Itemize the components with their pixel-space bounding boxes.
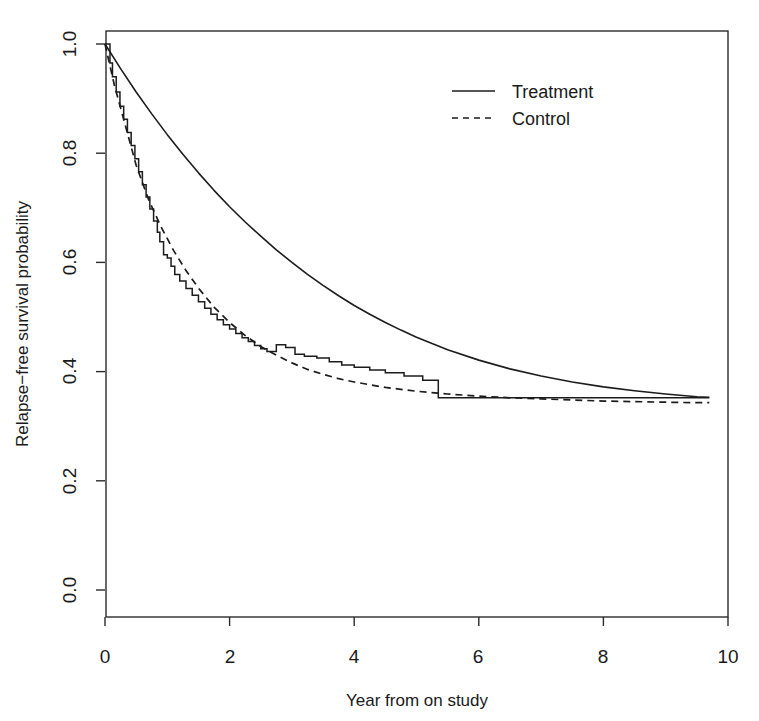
treatment-curve xyxy=(105,44,709,397)
x-axis-ticks xyxy=(105,617,728,626)
plot-frame xyxy=(106,31,728,617)
y-tick-labels: 1.0 0.8 0.6 0.4 0.2 0.0 xyxy=(59,31,80,603)
y-tick-label-0.4: 0.4 xyxy=(59,357,80,384)
chart-legend: Treatment Control xyxy=(452,82,593,129)
x-tick-label-8: 8 xyxy=(598,646,609,667)
y-axis-ticks xyxy=(96,44,105,590)
y-tick-label-1.0: 1.0 xyxy=(59,31,80,57)
x-tick-label-4: 4 xyxy=(349,646,360,667)
x-tick-label-2: 2 xyxy=(225,646,236,667)
y-axis-title: Relapse−free survival probability xyxy=(13,200,32,447)
legend-control-label: Control xyxy=(512,109,570,129)
x-tick-label-0: 0 xyxy=(100,646,111,667)
survival-chart-figure: 1.0 0.8 0.6 0.4 0.2 0.0 0 2 4 6 8 10 Rel… xyxy=(0,0,759,721)
y-tick-label-0.8: 0.8 xyxy=(59,140,80,166)
kaplan-meier-step-curve xyxy=(105,44,709,398)
plot-canvas: 1.0 0.8 0.6 0.4 0.2 0.0 0 2 4 6 8 10 Rel… xyxy=(0,0,759,721)
y-tick-label-0.2: 0.2 xyxy=(59,468,80,494)
x-tick-label-10: 10 xyxy=(717,646,738,667)
y-tick-label-0.0: 0.0 xyxy=(59,577,80,603)
control-curve xyxy=(105,44,709,403)
legend-treatment-label: Treatment xyxy=(512,82,593,102)
x-axis-title: Year from on study xyxy=(346,691,489,710)
x-tick-label-6: 6 xyxy=(473,646,484,667)
x-tick-labels: 0 2 4 6 8 10 xyxy=(100,646,739,667)
y-tick-label-0.6: 0.6 xyxy=(59,249,80,275)
